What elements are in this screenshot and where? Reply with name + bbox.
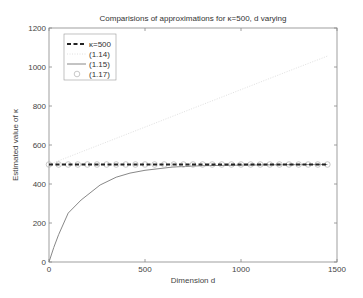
y-axis-label: Estimated value of κ <box>11 108 20 181</box>
y-tick-label: 1000 <box>28 63 46 72</box>
legend-label-kappa: κ=500 <box>89 40 112 49</box>
x-axis-label: Dimension d <box>171 276 215 285</box>
legend-label-1-14: (1.14) <box>89 50 110 59</box>
chart-title: Comparisions of approximations for κ=500… <box>100 14 287 23</box>
x-tick-label: 0 <box>47 265 52 274</box>
legend-label-1-17: (1.17) <box>89 70 110 79</box>
y-tick-label: 400 <box>33 180 47 189</box>
chart: Comparisions of approximations for κ=500… <box>0 0 363 298</box>
x-tick-label: 1500 <box>328 265 346 274</box>
y-tick-label: 1200 <box>28 24 46 33</box>
legend-label-1-15: (1.15) <box>89 60 110 69</box>
legend: κ=500 (1.14) (1.15) (1.17) <box>64 34 116 80</box>
y-tick-label: 0 <box>42 258 47 267</box>
y-tick-label: 800 <box>33 102 47 111</box>
x-tick-label: 1000 <box>232 265 250 274</box>
x-tick-label: 500 <box>138 265 152 274</box>
y-tick-label: 600 <box>33 141 47 150</box>
y-tick-label: 200 <box>33 219 47 228</box>
